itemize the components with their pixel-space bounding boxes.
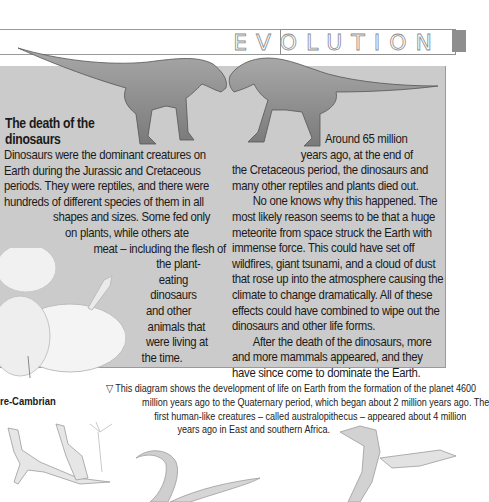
- text-line: the Cretaceous period, the dinosaurs and: [232, 162, 443, 178]
- text-line: immense force. This could have set off: [232, 240, 443, 256]
- text-line: many other reptiles and plants died out.: [232, 178, 443, 194]
- right-column-text: Around 65 million years ago, at the end …: [232, 131, 443, 381]
- text-line: effects could have combined to wipe out …: [232, 303, 443, 319]
- text-line: that rose up into the atmosphere causing…: [232, 271, 443, 287]
- article-heading: The death of the dinosaurs: [5, 116, 94, 147]
- text-line: shapes and sizes. Some fed only: [4, 209, 226, 225]
- text-line: dinosaurs and other life forms.: [232, 318, 443, 334]
- precambrian-earth-illustration: [0, 248, 125, 378]
- heading-line: The death of the: [5, 116, 94, 132]
- text-line: climate to change dramatically. All of t…: [232, 287, 443, 303]
- text-line: No one knows why this happened. The: [232, 193, 443, 209]
- early-dinosaurs-illustration: [0, 422, 466, 502]
- precambrian-label: re-Cambrian: [0, 395, 56, 407]
- text-line: wildfires, giant tsunami, and a cloud of…: [232, 256, 443, 272]
- text-line: have since come to dominate the Earth.: [232, 365, 443, 381]
- heading-line: dinosaurs: [5, 132, 94, 148]
- text-line: Earth during the Jurassic and Cretaceous: [4, 163, 226, 179]
- text-line: hundreds of different species of them in…: [4, 194, 226, 210]
- page-side-tab: [452, 30, 466, 52]
- text-line: Around 65 million: [232, 131, 443, 147]
- text-line: most likely reason seems to be that a hu…: [232, 209, 443, 225]
- text-line: After the death of the dinosaurs, more: [232, 334, 443, 350]
- text-line: meteorite from space struck the Earth wi…: [232, 225, 443, 241]
- text-line: and more mammals appeared, and they: [232, 349, 443, 365]
- text-line: periods. They were reptiles, and there w…: [4, 178, 226, 194]
- text-line: Dinosaurs were the dominant creatures on: [4, 147, 226, 163]
- caption-line: ▽ This diagram shows the development of …: [106, 382, 489, 396]
- text-line: on plants, while others ate: [4, 225, 226, 241]
- caption-line: million years ago to the Quaternary peri…: [106, 396, 489, 410]
- text-line: years ago, at the end of: [232, 147, 443, 163]
